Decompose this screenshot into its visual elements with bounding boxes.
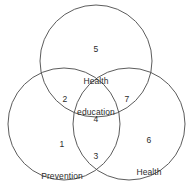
region-number-5: 5 (56, 44, 136, 55)
region-label-overlap-prevention-protection: 3 (87, 131, 105, 183)
region-number-2: 2 (56, 94, 74, 105)
region-number-6: 6 (113, 135, 185, 146)
region-label-health-protection: 6 Health protection (113, 115, 185, 191)
region-label-overlap-education-prevention: 2 (56, 74, 74, 126)
region-number-7: 7 (118, 94, 136, 105)
region-number-4: 4 (87, 114, 105, 125)
region-number-3: 3 (87, 151, 105, 162)
region-text-protection-line1: Health (113, 167, 185, 178)
region-label-overlap-education-protection: 7 (118, 74, 136, 126)
venn-diagram-figure: 5 Health education 1 Prevention 6 Health… (0, 0, 193, 191)
